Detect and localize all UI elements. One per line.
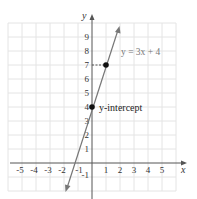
x-tick: -2 xyxy=(58,165,66,175)
y-tick: 8 xyxy=(85,46,90,56)
y-tick: 4 xyxy=(85,102,90,112)
y-tick: 1 xyxy=(85,144,90,154)
x-tick: 1 xyxy=(104,165,109,175)
y-tick: 5 xyxy=(85,88,90,98)
y-tick: 6 xyxy=(85,74,90,84)
y-axis-arrow-icon xyxy=(90,14,95,20)
coordinate-plane: x y -5 -4 -3 -2 -1 1 2 3 4 5 9 8 7 6 5 4… xyxy=(0,0,197,199)
x-axis-label: x xyxy=(180,164,186,175)
x-tick-labels: -5 -4 -3 -2 -1 1 2 3 4 5 xyxy=(16,165,165,175)
y-intercept-point xyxy=(89,104,95,110)
y-intercept-label: y-intercept xyxy=(99,102,143,113)
point-1-7 xyxy=(103,62,109,68)
x-tick: -4 xyxy=(30,165,38,175)
x-tick: 3 xyxy=(132,165,137,175)
y-axis-label: y xyxy=(81,10,87,21)
x-tick: 4 xyxy=(146,165,151,175)
x-tick: -3 xyxy=(44,165,52,175)
y-tick: 7 xyxy=(85,60,90,70)
x-tick: 5 xyxy=(160,165,165,175)
equation-label: y = 3x + 4 xyxy=(121,47,160,57)
y-tick: 9 xyxy=(85,32,90,42)
y-tick: -1 xyxy=(82,170,90,180)
x-tick: -5 xyxy=(16,165,24,175)
y-tick-labels: 9 8 7 6 5 4 3 2 1 -1 xyxy=(82,32,90,180)
x-tick: 2 xyxy=(118,165,123,175)
